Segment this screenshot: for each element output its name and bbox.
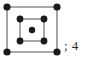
- lattice-point-outer-top-left: [3, 3, 10, 10]
- lattice-point-inner-top-right: [41, 16, 48, 23]
- lattice-point-inner-bottom-left: [17, 38, 24, 45]
- lattice-diagram-canvas: [0, 0, 87, 64]
- lattice-point-center: [29, 27, 35, 33]
- lattice-point-outer-bottom-right: [53, 48, 60, 55]
- lattice-point-outer-bottom-left: [3, 48, 10, 55]
- lattice-point-inner-bottom-right: [41, 38, 48, 45]
- lattice-point-outer-top-right: [53, 3, 60, 10]
- lattice-point-inner-top-left: [17, 16, 24, 23]
- lattice-diagram-figure: ; 4: [0, 0, 87, 64]
